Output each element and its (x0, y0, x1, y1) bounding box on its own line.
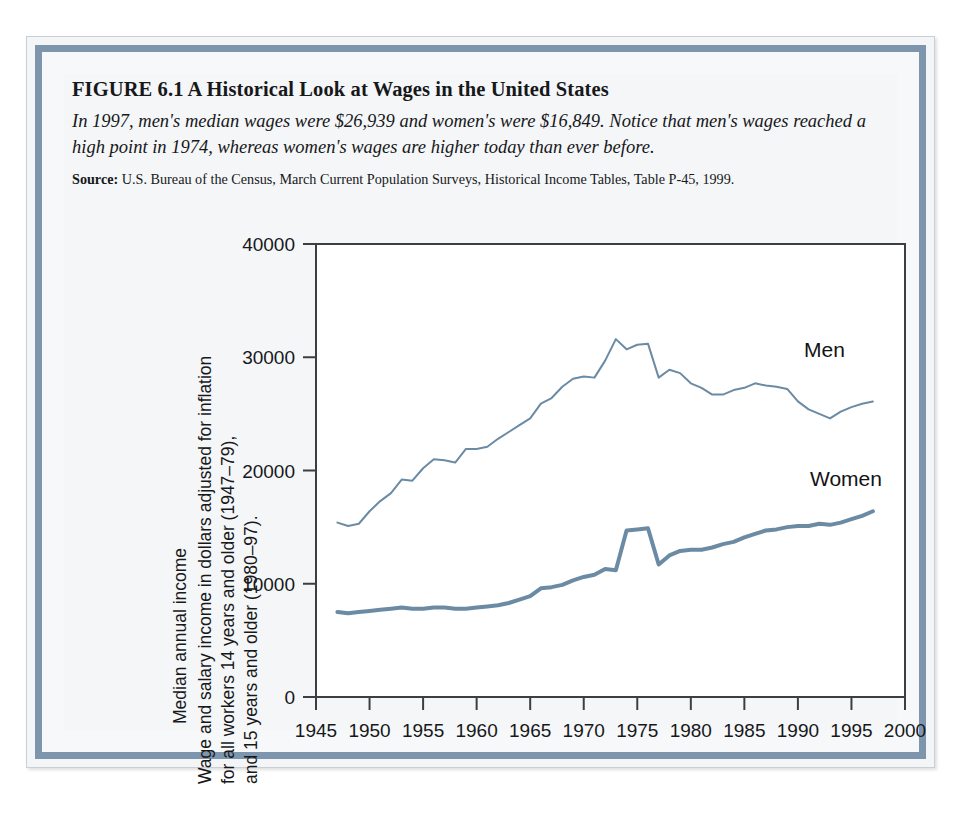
x-tick-label: 1960 (455, 720, 497, 741)
x-tick-label: 1975 (616, 720, 658, 741)
x-tick-label: 1955 (402, 720, 444, 741)
y-tick-label: 30000 (242, 347, 295, 368)
chart-area: Median annual income Wage and salary inc… (64, 224, 929, 784)
source-text: U.S. Bureau of the Census, March Current… (122, 171, 735, 187)
x-tick-label: 1970 (563, 720, 605, 741)
figure-title: FIGURE 6.1 A Historical Look at Wages in… (72, 78, 892, 101)
figure-box: FIGURE 6.1 A Historical Look at Wages in… (26, 36, 935, 768)
y-tick-label: 40000 (242, 234, 295, 255)
y-axis-tick-labels: 010000200003000040000 (242, 234, 295, 708)
y-tick-label: 10000 (242, 574, 295, 595)
figure-caption: FIGURE 6.1 A Historical Look at Wages in… (72, 78, 892, 188)
y-axis-ticks (303, 244, 316, 697)
series-label-men: Men (804, 338, 845, 361)
x-tick-label: 1980 (670, 720, 712, 741)
figure-border-rule: FIGURE 6.1 A Historical Look at Wages in… (35, 45, 926, 759)
y-tick-label: 20000 (242, 461, 295, 482)
x-tick-label: 1990 (777, 720, 819, 741)
figure-source: Source: U.S. Bureau of the Census, March… (72, 170, 892, 188)
x-tick-label: 1945 (295, 720, 337, 741)
x-tick-label: 1965 (509, 720, 551, 741)
series-label-women: Women (810, 467, 882, 490)
x-axis-tick-labels: 1945195019551960196519701975198019851990… (295, 720, 926, 741)
y-tick-label: 0 (284, 687, 295, 708)
figure-inner-area: FIGURE 6.1 A Historical Look at Wages in… (64, 74, 897, 730)
x-tick-label: 1995 (830, 720, 872, 741)
x-tick-label: 1950 (348, 720, 390, 741)
line-chart-svg: 1945195019551960196519701975198019851990… (64, 224, 929, 784)
source-label: Source: (72, 171, 118, 187)
x-tick-label: 2000 (884, 720, 926, 741)
x-axis-ticks (316, 697, 905, 710)
x-tick-label: 1985 (723, 720, 765, 741)
figure-subtitle: In 1997, men's median wages were $26,939… (72, 108, 872, 161)
